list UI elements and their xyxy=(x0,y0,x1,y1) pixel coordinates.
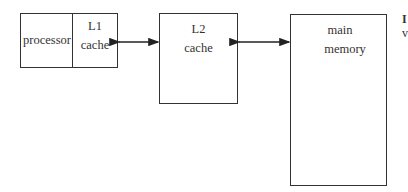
cropped-text-line2: v xyxy=(402,26,408,41)
cropped-text-line1: I xyxy=(402,12,407,27)
